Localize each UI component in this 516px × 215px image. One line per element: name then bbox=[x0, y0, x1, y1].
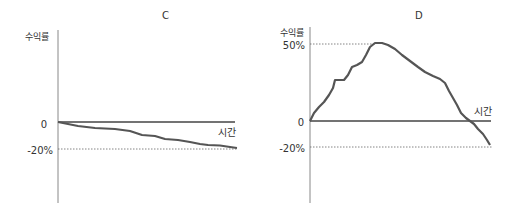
chart-d-ylabel: 수익률 bbox=[280, 27, 304, 38]
chart-d-xlabel: 시간 bbox=[474, 106, 492, 117]
chart-c-series-line bbox=[58, 122, 237, 148]
chart-d-tick-neg20: -20% bbox=[279, 143, 305, 154]
chart-c: C 수익률 0 -20% 시간 bbox=[25, 10, 238, 203]
chart-d: D 수익률 50% 0 -20% 시간 bbox=[279, 10, 492, 203]
chart-c-tick-neg20: -20% bbox=[27, 145, 53, 156]
chart-c-xlabel: 시간 bbox=[218, 127, 236, 138]
charts-canvas: C 수익률 0 -20% 시간 D 수익률 50% 0 -20% 시간 bbox=[0, 0, 516, 215]
chart-d-series-line bbox=[310, 43, 490, 145]
chart-c-tick-zero: 0 bbox=[41, 119, 47, 130]
chart-d-title: D bbox=[415, 10, 423, 21]
chart-c-title: C bbox=[162, 10, 169, 21]
chart-c-ylabel: 수익률 bbox=[25, 31, 49, 42]
chart-d-tick-zero: 0 bbox=[298, 117, 304, 128]
chart-d-tick-50: 50% bbox=[283, 40, 305, 51]
